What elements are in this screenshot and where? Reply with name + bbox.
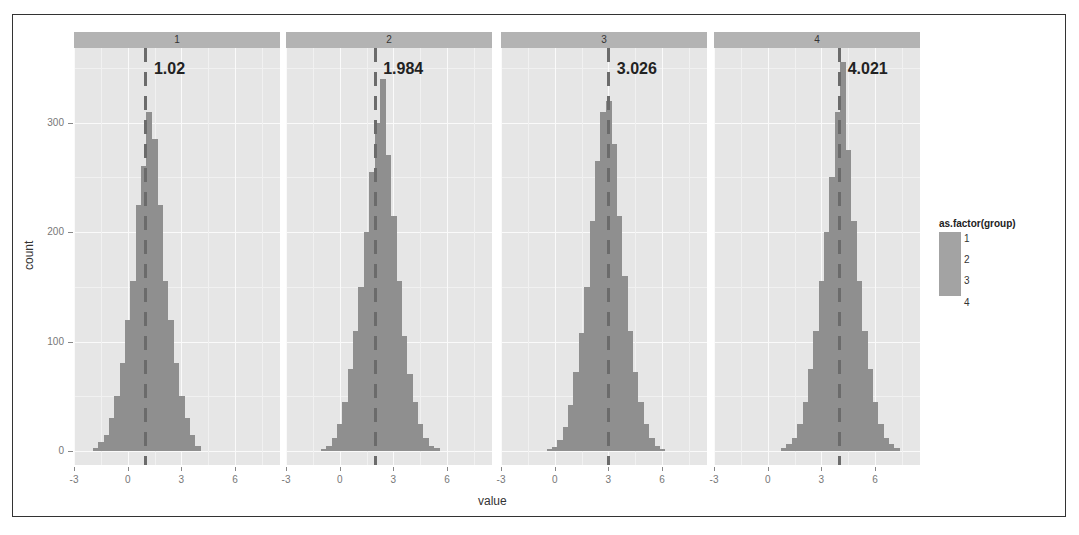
legend-title: as.factor(group) — [939, 218, 1016, 229]
histogram-bar — [195, 446, 201, 451]
x-tick-mark — [181, 467, 182, 471]
mean-value-label: 1.02 — [154, 60, 185, 78]
minor-gridline-h — [714, 287, 920, 288]
x-tick-label: 6 — [225, 474, 245, 485]
legend-key-3 — [939, 264, 961, 280]
major-gridline-v — [501, 48, 502, 465]
mean-dashed-line — [607, 48, 610, 465]
x-tick-label: 0 — [545, 474, 565, 485]
minor-gridline-v — [795, 48, 796, 465]
x-tick-mark — [875, 467, 876, 471]
minor-gridline-h — [714, 177, 920, 178]
x-tick-label: 0 — [118, 474, 138, 485]
x-tick-mark — [447, 467, 448, 471]
major-gridline-h — [501, 451, 707, 452]
y-tick-mark — [68, 342, 73, 343]
major-gridline-h — [74, 342, 280, 343]
y-axis-label: count — [22, 241, 36, 270]
minor-gridline-h — [501, 68, 707, 69]
mean-dashed-line — [144, 48, 147, 465]
x-tick-mark — [662, 467, 663, 471]
x-tick-label: 6 — [865, 474, 885, 485]
major-gridline-v — [74, 48, 75, 465]
facet-panel-2 — [286, 48, 492, 465]
major-gridline-v — [447, 48, 448, 465]
x-tick-label: 0 — [330, 474, 350, 485]
major-gridline-h — [286, 451, 492, 452]
histogram-bar — [434, 448, 440, 451]
y-tick-label: 200 — [24, 226, 64, 237]
x-tick-mark — [501, 467, 502, 471]
y-tick-label: 100 — [24, 336, 64, 347]
minor-gridline-v — [741, 48, 742, 465]
legend-label-4: 4 — [964, 297, 970, 308]
x-tick-label: 6 — [652, 474, 672, 485]
x-tick-label: 3 — [598, 474, 618, 485]
x-tick-mark — [74, 467, 75, 471]
major-gridline-h — [714, 232, 920, 233]
facet-strip-3: 3 — [501, 32, 707, 48]
legend-label-1: 1 — [964, 233, 970, 244]
facet-panel-1 — [74, 48, 280, 465]
major-gridline-v — [768, 48, 769, 465]
legend-key-2 — [939, 248, 961, 264]
facet-panel-3 — [501, 48, 707, 465]
mean-value-label: 3.026 — [617, 60, 657, 78]
x-tick-label: -3 — [276, 474, 296, 485]
minor-gridline-v — [208, 48, 209, 465]
minor-gridline-h — [714, 68, 920, 69]
legend-label-3: 3 — [964, 275, 970, 286]
x-tick-label: -3 — [704, 474, 724, 485]
minor-gridline-v — [689, 48, 690, 465]
x-tick-mark — [235, 467, 236, 471]
x-tick-label: 6 — [437, 474, 457, 485]
minor-gridline-v — [474, 48, 475, 465]
y-tick-mark — [68, 451, 73, 452]
major-gridline-v — [340, 48, 341, 465]
x-tick-label: 0 — [758, 474, 778, 485]
x-tick-mark — [286, 467, 287, 471]
x-tick-label: 3 — [811, 474, 831, 485]
minor-gridline-v — [262, 48, 263, 465]
x-tick-label: -3 — [64, 474, 84, 485]
major-gridline-v — [235, 48, 236, 465]
mean-value-label: 4.021 — [848, 60, 888, 78]
histogram-bar — [659, 449, 665, 451]
facet-strip-1: 1 — [74, 32, 280, 48]
major-gridline-h — [74, 123, 280, 124]
histogram-bar — [894, 448, 900, 451]
x-tick-mark — [821, 467, 822, 471]
y-tick-mark — [68, 123, 73, 124]
minor-gridline-v — [313, 48, 314, 465]
x-tick-mark — [714, 467, 715, 471]
y-tick-label: 0 — [24, 445, 64, 456]
minor-gridline-h — [74, 287, 280, 288]
minor-gridline-v — [420, 48, 421, 465]
x-tick-mark — [768, 467, 769, 471]
mean-dashed-line — [374, 48, 377, 465]
x-tick-label: 3 — [383, 474, 403, 485]
facet-strip-2: 2 — [286, 32, 492, 48]
minor-gridline-h — [74, 177, 280, 178]
major-gridline-h — [74, 451, 280, 452]
minor-gridline-v — [902, 48, 903, 465]
x-tick-label: 3 — [171, 474, 191, 485]
x-tick-mark — [128, 467, 129, 471]
x-tick-label: -3 — [491, 474, 511, 485]
legend-key-1 — [939, 232, 961, 248]
minor-gridline-v — [101, 48, 102, 465]
major-gridline-v — [662, 48, 663, 465]
x-tick-mark — [340, 467, 341, 471]
mean-dashed-line — [838, 48, 841, 465]
facet-panel-4 — [714, 48, 920, 465]
major-gridline-h — [714, 451, 920, 452]
y-tick-label: 300 — [24, 117, 64, 128]
x-tick-mark — [393, 467, 394, 471]
legend-key-4 — [939, 280, 961, 296]
y-tick-mark — [68, 232, 73, 233]
x-tick-mark — [608, 467, 609, 471]
major-gridline-v — [714, 48, 715, 465]
x-axis-label: value — [478, 494, 507, 508]
minor-gridline-v — [528, 48, 529, 465]
legend-label-2: 2 — [964, 254, 970, 265]
